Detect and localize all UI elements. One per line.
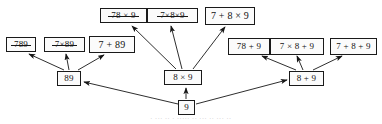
node-leaf-r2[interactable]: 7 × 8 + 9 [270,38,324,55]
node-mid-left[interactable]: 89 [57,71,81,86]
edge-mid-left-to-leaf-l2 [66,54,69,70]
edge-mid-left-to-leaf-l1 [29,54,64,70]
node-label: 7 + 8 × 9 [210,11,250,21]
edge-mid-right-to-leaf-r3 [313,56,342,70]
edge-root-to-mid-left [84,82,178,104]
edge-mid-left-to-leaf-l3 [78,55,104,70]
node-leaf-l2[interactable]: 7×89 [44,37,85,52]
node-leaf-c3[interactable]: 7 + 8 × 9 [205,7,255,25]
node-root[interactable]: 9 [178,100,195,115]
edge-mid-right-to-leaf-r1 [262,56,296,70]
node-label: 78 × 9 [110,11,136,20]
edge-mid-right-to-leaf-r2 [297,56,303,70]
edge-mid-center-to-leaf-c2 [171,26,182,69]
node-label: 7×89 [54,40,75,49]
node-leaf-l3[interactable]: 7 + 89 [89,36,135,53]
node-leaf-l1[interactable]: 789 [6,37,36,52]
node-leaf-c1[interactable]: 78 × 9 [100,8,147,23]
node-label: 9 [183,103,190,112]
node-mid-center[interactable]: 8 × 9 [164,70,202,85]
edge-mid-center-to-leaf-c3 [193,27,225,69]
node-label: 8 × 9 [172,73,194,82]
edge-root-to-mid-right [196,80,287,104]
node-leaf-r3[interactable]: 7 + 8 + 9 [330,38,377,55]
node-label: 89 [63,74,74,83]
node-mid-right[interactable]: 8 + 9 [289,71,324,86]
node-label: 8 + 9 [296,74,318,83]
node-leaf-r1[interactable]: 78 + 9 [228,38,270,55]
node-label: 7×8×9 [159,11,186,20]
node-label: 78 + 9 [236,42,262,51]
node-label: 7 + 8 + 9 [335,42,371,51]
node-label: 7 × 8 + 9 [279,42,315,51]
diagram-canvas: 9898 × 98 + 97897×897 + 8978 × 97×8×97 +… [0,0,382,124]
node-leaf-c2[interactable]: 7×8×9 [147,8,198,23]
figure-caption: · ··· ·· · ····· ·· ··· ·· ··· ·· [0,116,382,122]
node-label: 7 + 89 [98,40,127,50]
node-label: 789 [13,40,29,49]
edge-mid-center-to-leaf-c1 [132,26,176,69]
